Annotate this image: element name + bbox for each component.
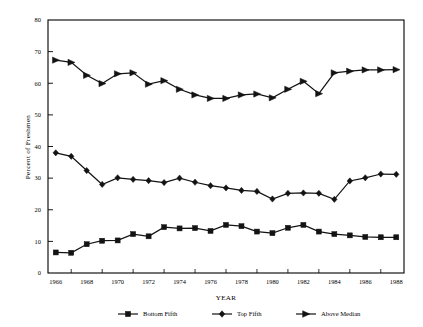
- x-tick-label: 1988: [390, 278, 403, 285]
- data-point-square: [131, 232, 136, 237]
- y-tick-label: 70: [35, 48, 41, 55]
- data-point-square: [193, 226, 198, 231]
- x-tick-label: 1968: [80, 278, 93, 285]
- x-tick-label: 1978: [235, 278, 248, 285]
- y-tick-label: 30: [35, 174, 41, 181]
- y-tick-label: 80: [35, 16, 41, 23]
- data-point-diamond: [219, 311, 225, 318]
- legend-label: Bottom Fifth: [143, 310, 178, 317]
- chart-figure: 01020304050607080 1966196819701972197419…: [0, 0, 423, 327]
- data-point-square: [332, 232, 337, 237]
- data-point-triangle-right: [303, 311, 310, 318]
- data-point-square: [347, 233, 352, 238]
- data-point-square: [162, 225, 167, 230]
- x-tick-label: 1976: [204, 278, 217, 285]
- data-point-square: [69, 250, 74, 255]
- data-point-square: [100, 238, 105, 243]
- data-point-square: [394, 235, 399, 240]
- x-tick-label: 1984: [328, 278, 342, 285]
- chart-legend: Bottom FifthTop FifthAbove Median: [118, 310, 361, 317]
- data-point-square: [208, 228, 213, 233]
- line-chart: 01020304050607080 1966196819701972197419…: [0, 0, 423, 327]
- x-tick-label: 1974: [173, 278, 187, 285]
- legend-item-top-fifth[interactable]: Top Fifth: [212, 310, 262, 317]
- data-point-square: [177, 226, 182, 231]
- legend-label: Above Median: [321, 310, 361, 317]
- data-point-square: [285, 225, 290, 230]
- legend-label: Top Fifth: [237, 310, 262, 317]
- data-point-square: [84, 242, 89, 247]
- x-tick-label: 1980: [266, 278, 279, 285]
- y-tick-label: 10: [35, 238, 41, 245]
- y-tick-label: 20: [35, 206, 41, 213]
- x-axis-title: YEAR: [216, 294, 237, 302]
- legend-item-above-median[interactable]: Above Median: [296, 310, 361, 317]
- y-axis-tick-labels: 01020304050607080: [35, 16, 41, 276]
- x-tick-label: 1982: [297, 278, 310, 285]
- data-point-square: [224, 222, 229, 227]
- y-tick-label: 60: [35, 80, 41, 87]
- data-point-square: [316, 229, 321, 234]
- data-point-square: [239, 224, 244, 229]
- data-point-square: [378, 235, 383, 240]
- data-point-square: [270, 231, 275, 236]
- data-point-square: [115, 238, 120, 243]
- x-tick-label: 1970: [111, 278, 124, 285]
- data-point-square: [146, 234, 151, 239]
- data-point-square: [53, 250, 58, 255]
- y-axis-title: Percent of Freshmen: [24, 115, 32, 180]
- data-point-square: [254, 229, 259, 234]
- data-point-square: [125, 311, 130, 316]
- y-tick-label: 0: [38, 269, 41, 276]
- x-tick-label: 1986: [359, 278, 372, 285]
- x-tick-label: 1972: [142, 278, 155, 285]
- y-tick-label: 50: [35, 111, 41, 118]
- data-point-square: [363, 234, 368, 239]
- y-tick-label: 40: [35, 143, 41, 150]
- legend-item-bottom-fifth[interactable]: Bottom Fifth: [118, 310, 178, 317]
- x-tick-label: 1966: [49, 278, 62, 285]
- data-point-square: [301, 222, 306, 227]
- x-axis-tick-labels: 1966196819701972197419761978198019821984…: [49, 278, 402, 285]
